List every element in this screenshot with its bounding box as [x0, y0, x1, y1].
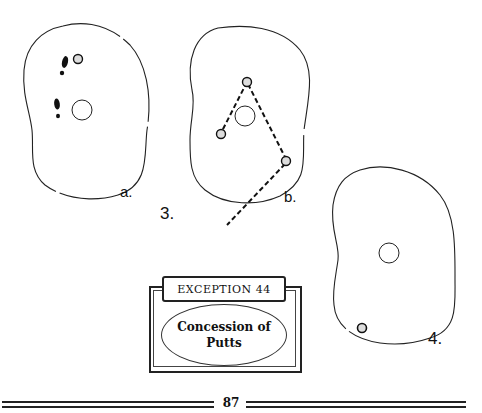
exception-oval: Concession of Putts: [161, 304, 287, 366]
putt-path: [221, 82, 286, 225]
footprint-icon: [53, 98, 60, 118]
ball-a: [74, 55, 83, 64]
footer-rule-right: [246, 401, 466, 408]
ball-b-left: [217, 130, 226, 139]
hole-a: [72, 100, 92, 120]
ball-4: [358, 324, 367, 333]
ball-b-right: [282, 157, 291, 166]
exception-banner-text: EXCEPTION 44: [177, 283, 270, 296]
footer-rule-left: [2, 401, 214, 408]
footprint-icon: [60, 56, 69, 76]
page-footer: 87: [0, 396, 482, 412]
hole-4: [379, 243, 399, 263]
panel-label-a: a.: [120, 183, 133, 200]
exception-banner: EXCEPTION 44: [162, 276, 286, 302]
figure-number-4: 4.: [428, 329, 442, 349]
exception-box: EXCEPTION 44 Concession of Putts: [149, 276, 302, 374]
ball-b-top: [243, 78, 252, 87]
panel-label-b: b.: [284, 188, 297, 205]
hole-b: [235, 106, 255, 126]
figure-number-3: 3.: [160, 204, 174, 224]
exception-title: Concession of Putts: [177, 319, 270, 351]
page-number: 87: [218, 396, 244, 410]
